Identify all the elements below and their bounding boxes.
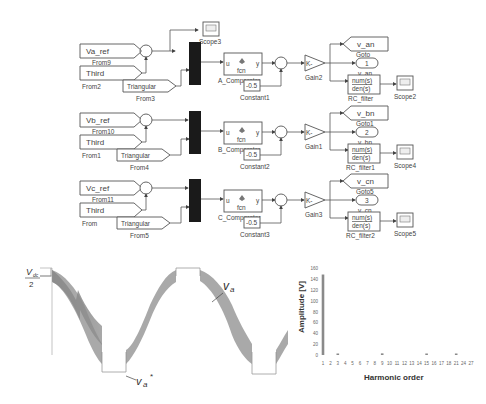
goto-tag-block-b[interactable]: 2 (356, 127, 378, 137)
scope5-block[interactable] (397, 213, 413, 227)
pwm-band-descending-1 (52, 270, 102, 364)
vdc-label-den: 2 (29, 280, 34, 289)
x-tick-label: 17 (439, 361, 445, 366)
svg-text:num(s): num(s) (352, 146, 372, 154)
from-label-from1: From1 (82, 152, 101, 159)
comparator-block-b[interactable]: u y fcn (224, 122, 262, 144)
svg-text:u: u (226, 129, 230, 136)
gain2-label: Gain2 (305, 74, 323, 81)
constant2-block[interactable]: -0.5 (244, 149, 260, 160)
sum2-block-c[interactable] (275, 194, 287, 206)
x-tick-label: 21 (454, 361, 460, 366)
from-block-vc-ref[interactable]: Vc_ref (80, 181, 142, 195)
y-tick-label: 80 (313, 310, 319, 315)
from-block-third-a[interactable]: Third (80, 66, 142, 80)
from-label-from4: From4 (130, 164, 149, 171)
from-block-third-b[interactable]: Third (80, 135, 142, 149)
y-tick-label: 160 (310, 266, 318, 271)
bar-harmonic-9 (381, 353, 384, 355)
va-label: v (223, 279, 230, 293)
mux-block-c[interactable] (189, 179, 201, 222)
y-tick-label: 20 (313, 342, 319, 347)
from-block-vb-ref[interactable]: Vb_ref (80, 113, 142, 127)
scope3-block[interactable] (203, 22, 219, 36)
svg-text:fcn: fcn (237, 204, 246, 211)
rc-filter2-label: RC_filter2 (346, 232, 375, 240)
x-tick-label: 13 (409, 361, 415, 366)
from-block-triangular-c[interactable]: Triangular (117, 217, 170, 229)
va-star-label-sub: a (143, 380, 148, 389)
svg-text:3: 3 (365, 197, 369, 204)
svg-text:v_bn: v_bn (357, 109, 374, 118)
constant3-block[interactable]: -0.5 (244, 217, 260, 228)
gain2-block[interactable]: K- (305, 55, 325, 71)
from-label-from: From (82, 220, 97, 227)
from-label-from9: From9 (92, 59, 111, 66)
goto-label-b: Goto1 (356, 120, 374, 127)
va-star-asterisk: * (150, 372, 153, 381)
comparator-block-a[interactable]: u y fcn (224, 53, 262, 75)
svg-text:fcn: fcn (237, 136, 246, 143)
svg-text:fcn: fcn (237, 67, 246, 74)
constant3-label: Constant3 (240, 231, 270, 238)
goto-tag-block-a[interactable]: 1 (356, 58, 378, 68)
mux-block-a[interactable] (189, 42, 201, 85)
from-label-from11: From11 (92, 196, 114, 203)
svg-text:-0.5: -0.5 (246, 151, 258, 158)
constant1-block[interactable]: -0.5 (244, 80, 260, 91)
phase-a-row: Va_ref From9 Third From2 Scope3 Triangul… (80, 22, 416, 103)
mux-block-b[interactable] (189, 111, 201, 154)
x-tick-label: 15 (424, 361, 430, 366)
x-axis-ticks: 123456789101112131415161718212427 (322, 361, 474, 366)
scope3-label: Scope3 (199, 38, 221, 46)
x-tick-label: 3 (337, 361, 340, 366)
phase-b-row: Vb_ref From10 Third From1 Triangular Fro… (80, 106, 416, 172)
svg-text:v_cn: v_cn (357, 177, 374, 186)
from-block-triangular-a[interactable]: Triangular (123, 80, 176, 92)
va-label-sub: a (230, 285, 235, 294)
svg-text:den(s): den(s) (352, 222, 370, 230)
goto-out-block-v-cn[interactable]: v_cn (343, 174, 388, 188)
y-tick-label: 120 (310, 288, 318, 293)
from-block-third-c[interactable]: Third (80, 203, 142, 217)
svg-text:v_an: v_an (357, 40, 374, 49)
from-label-from10: From10 (92, 128, 115, 135)
gain3-block[interactable]: K- (305, 192, 325, 208)
sum-block-c[interactable] (140, 182, 152, 194)
x-tick-label: 14 (417, 361, 423, 366)
goto-out-block-v-bn[interactable]: v_bn (343, 106, 388, 120)
va-star-pointer (126, 376, 136, 380)
svg-text:Third: Third (86, 69, 104, 78)
sum2-block-a[interactable] (275, 57, 287, 69)
x-tick-label: 11 (395, 361, 400, 366)
comparator-block-c[interactable]: u y fcn (224, 190, 262, 212)
rc-filter1-block[interactable]: num(s) den(s) (348, 144, 380, 163)
sum-block-b[interactable] (140, 114, 152, 126)
from-label-from2: From2 (82, 83, 101, 90)
x-tick-label: 16 (431, 361, 437, 366)
sum2-block-b[interactable] (275, 126, 287, 138)
rc-filter2-block[interactable]: num(s) den(s) (348, 212, 380, 231)
scope2-label: Scope2 (394, 93, 416, 101)
from-block-triangular-b[interactable]: Triangular (117, 149, 170, 161)
svg-text:Va_ref: Va_ref (86, 47, 110, 56)
gain1-block[interactable]: K- (305, 124, 325, 140)
scope4-block[interactable] (397, 145, 413, 159)
bar-harmonic-1 (322, 275, 325, 355)
x-tick-label: 24 (461, 361, 467, 366)
rc-filter-block[interactable]: num(s) den(s) (348, 75, 380, 94)
y-tick-label: 100 (310, 299, 318, 304)
goto-out-block-v-an[interactable]: v_an (343, 37, 388, 51)
svg-text:Triangular: Triangular (127, 83, 157, 91)
scope2-block[interactable] (397, 76, 413, 90)
svg-text:Vc_ref: Vc_ref (86, 184, 110, 193)
x-tick-label: 7 (366, 361, 369, 366)
y-tick-label: 40 (313, 331, 319, 336)
vdc-label-num: V (26, 267, 33, 277)
goto-tag-block-c[interactable]: 3 (356, 195, 378, 205)
svg-text:2: 2 (365, 129, 369, 136)
from-block-va-ref[interactable]: Va_ref (80, 44, 142, 58)
bar-harmonic-15 (425, 354, 428, 356)
svg-text:num(s): num(s) (352, 77, 372, 85)
x-tick-label: 18 (446, 361, 452, 366)
